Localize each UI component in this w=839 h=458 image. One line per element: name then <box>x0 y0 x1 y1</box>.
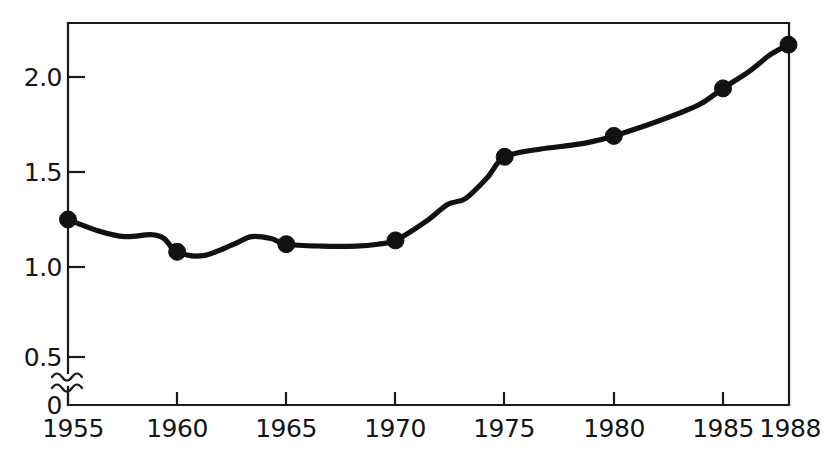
data-series-line <box>68 45 789 256</box>
data-point-1985 <box>715 80 732 97</box>
axis-break-upper-squiggle <box>52 374 82 381</box>
y-tick-label-1-0: 1.0 <box>24 253 62 282</box>
plot-frame <box>68 23 789 405</box>
x-axis-tick-labels: 1955 1960 1965 1970 1975 1980 1985 1988 <box>42 414 821 443</box>
x-tick-label-1988: 1988 <box>759 414 821 443</box>
x-tick-label-1980: 1980 <box>583 414 645 443</box>
data-point-1965 <box>278 236 295 253</box>
chart-container: 2.0 1.5 1.0 0.5 0 1955 1960 1965 1970 19… <box>0 0 839 458</box>
x-tick-label-1970: 1970 <box>364 414 426 443</box>
data-point-1975 <box>496 148 513 165</box>
x-tick-label-1975: 1975 <box>473 414 535 443</box>
x-tick-label-1960: 1960 <box>146 414 208 443</box>
x-tick-label-1955: 1955 <box>42 414 104 443</box>
line-chart: 2.0 1.5 1.0 0.5 0 1955 1960 1965 1970 19… <box>0 0 839 458</box>
data-point-markers <box>60 36 798 260</box>
data-point-1980 <box>605 127 622 144</box>
y-axis-tick-labels: 2.0 1.5 1.0 0.5 0 <box>24 63 62 420</box>
data-point-1960 <box>169 243 186 260</box>
y-tick-label-0-5: 0.5 <box>24 343 62 372</box>
data-point-1988 <box>780 36 797 53</box>
y-tick-label-2-0: 2.0 <box>24 63 62 92</box>
data-point-1955 <box>60 211 77 228</box>
data-point-1970 <box>387 232 404 249</box>
x-tick-label-1985: 1985 <box>692 414 754 443</box>
x-tick-label-1965: 1965 <box>255 414 317 443</box>
x-axis-ticks <box>68 392 723 405</box>
y-tick-label-1-5: 1.5 <box>24 158 62 187</box>
